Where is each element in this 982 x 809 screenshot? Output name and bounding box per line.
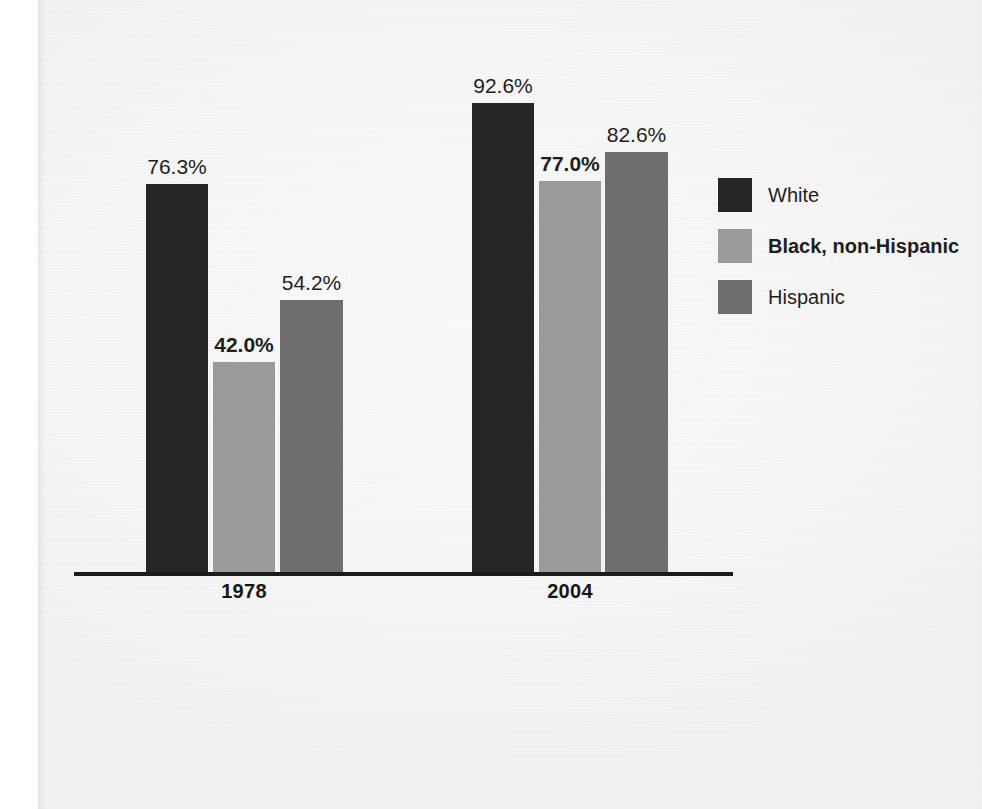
legend-item-hispanic[interactable]: Hispanic [718,274,959,320]
group-label-1978: 1978 [184,580,304,603]
legend-swatch-icon [718,229,752,263]
chart-page: 76.3%42.0%54.2%92.6%77.0%82.6% 19782004 … [0,0,982,809]
legend-item-label: Black, non-Hispanic [768,235,959,258]
legend-item-label: Hispanic [768,286,845,309]
bar-1978-hispanic [280,300,343,574]
bar-2004-white-value-label: 92.6% [450,75,556,96]
legend-item-label: White [768,184,819,207]
bar-1978-white [146,184,208,574]
x-axis-baseline [74,572,733,576]
bar-2004-black-non-hispanic [539,181,601,574]
legend-swatch-icon [718,178,752,212]
legend-swatch-icon [718,280,752,314]
grouped-bar-chart: 76.3%42.0%54.2%92.6%77.0%82.6% 19782004 … [0,0,982,809]
legend-item-white[interactable]: White [718,172,959,218]
legend-item-black-non-hispanic[interactable]: Black, non-Hispanic [718,223,959,269]
chart-legend: WhiteBlack, non-HispanicHispanic [718,172,959,325]
bar-1978-black-non-hispanic [213,362,275,574]
bar-1978-hispanic-value-label: 54.2% [258,272,365,293]
group-label-2004: 2004 [510,580,630,603]
bar-1978-white-value-label: 76.3% [124,156,230,177]
bar-2004-hispanic-value-label: 82.6% [583,124,690,145]
bar-2004-hispanic [605,152,668,574]
